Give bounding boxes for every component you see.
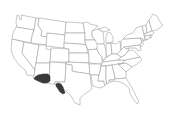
- state-colorado: [50, 48, 69, 62]
- state-new-mexico: [49, 62, 66, 84]
- state-maine: [149, 14, 163, 31]
- state-florida: [109, 78, 139, 104]
- state-connecticut: [145, 35, 150, 40]
- states-layer: [11, 14, 163, 105]
- us-map: [0, 0, 169, 114]
- state-wyoming: [46, 33, 65, 48]
- state-kansas: [69, 53, 89, 63]
- state-rhode-island: [150, 35, 152, 38]
- state-north-dakota: [65, 22, 85, 33]
- state-arkansas: [89, 64, 101, 75]
